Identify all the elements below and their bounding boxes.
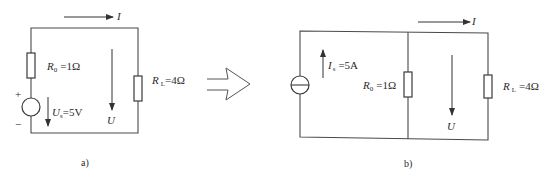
- circuit-b-current-label: I: [471, 15, 477, 27]
- circuit-b-rl-resistor-icon: [484, 75, 492, 98]
- circuit-a-voltage-label: U: [107, 114, 116, 126]
- circuit-a-rl-resistor-icon: [134, 76, 142, 101]
- hollow-right-arrow-icon: [207, 68, 250, 100]
- circuit-b-caption: b): [404, 158, 412, 170]
- circuit-b-source-label: Is=5A: [327, 59, 358, 73]
- circuit-a-caption: a): [81, 157, 89, 169]
- circuit-b: Is=5A R0=1Ω I U RL=4Ω b): [291, 15, 539, 170]
- circuit-a-r0-label: R0=1Ω: [46, 60, 80, 74]
- circuit-a-current-label: I: [116, 10, 122, 22]
- plus-sign: +: [15, 88, 21, 100]
- circuit-a-source-label: Us=5V: [52, 106, 82, 120]
- circuit-a-r0-resistor-icon: [27, 53, 35, 78]
- circuit-b-rl-label: RL=4Ω: [502, 80, 539, 94]
- circuit-b-voltage-label: U: [447, 120, 456, 132]
- circuit-a-wires: [31, 28, 138, 133]
- circuit-a-voltage-source-icon: [22, 98, 40, 116]
- minus-sign: −: [15, 118, 21, 130]
- circuit-b-r0-label: R0=1Ω: [362, 79, 396, 93]
- circuit-a-rl-label: RL=4Ω: [151, 74, 185, 88]
- circuit-b-r0-resistor-icon: [404, 72, 412, 97]
- circuit-a: + − I Us=5V R0=1Ω U RL=4Ω a): [15, 10, 185, 169]
- circuit-diagram: + − I Us=5V R0=1Ω U RL=4Ω a): [0, 0, 551, 180]
